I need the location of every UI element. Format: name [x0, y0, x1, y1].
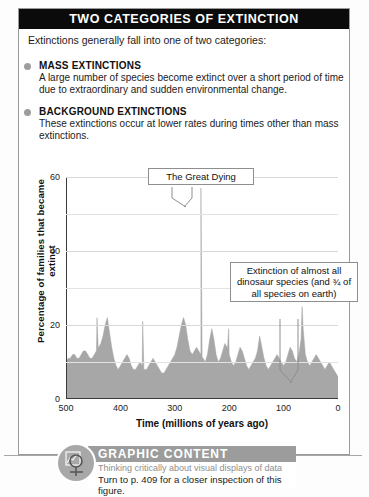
footer-rule-right — [296, 455, 362, 456]
y-axis-ticks: 0204060 — [34, 160, 60, 410]
footer-subtitle: Thinking critically about visual display… — [98, 463, 298, 473]
x-tick-label: 100 — [276, 403, 291, 413]
x-axis-line — [66, 398, 338, 399]
bullet-item-mass-extinctions: MASS EXTINCTIONS A large number of speci… — [24, 60, 344, 97]
callout-leader-dinosaur — [278, 318, 314, 384]
bullet-heading: MASS EXTINCTIONS — [39, 60, 344, 71]
x-tick-label: 200 — [222, 403, 237, 413]
x-tick-label: 400 — [113, 403, 128, 413]
x-tick-label: 0 — [335, 403, 340, 413]
y-tick-label: 0 — [34, 395, 60, 403]
footer-turn-to: Turn to p. 409 for a closer inspection o… — [98, 474, 308, 496]
magnifier-chart-icon — [56, 443, 96, 483]
bullet-dot-icon — [24, 109, 31, 116]
page-title: TWO CATEGORIES OF EXTINCTION — [69, 12, 299, 26]
bullet-body: These extinctions occur at lower rates d… — [39, 118, 344, 143]
bullet-heading: BACKGROUND EXTINCTIONS — [39, 106, 344, 117]
figure-title-bar: TWO CATEGORIES OF EXTINCTION — [19, 9, 349, 29]
bullet-item-background-extinctions: BACKGROUND EXTINCTIONS These extinctions… — [24, 106, 344, 143]
y-tick-label: 40 — [34, 247, 60, 255]
graphic-content-banner: GRAPHIC CONTENT — [88, 446, 296, 462]
figure-page: TWO CATEGORIES OF EXTINCTION Extinctions… — [0, 0, 369, 497]
x-axis-title: Time (millions of years ago) — [66, 418, 338, 429]
callout-dinosaur-extinction: Extinction of almost all dinosaur specie… — [230, 262, 358, 302]
x-axis-ticks: 5004003002001000 — [66, 403, 338, 417]
gridline — [66, 214, 338, 215]
x-tick-label: 500 — [58, 403, 73, 413]
intro-text: Extinctions generally fall into one of t… — [28, 34, 340, 46]
y-tick-label: 60 — [34, 173, 60, 181]
callout-great-dying: The Great Dying — [148, 168, 254, 185]
bullet-dot-icon — [24, 63, 31, 70]
gridline — [66, 251, 338, 252]
y-tick-label: 20 — [34, 321, 60, 329]
graphic-content-label: GRAPHIC CONTENT — [98, 447, 228, 461]
callout-leader-great-dying — [170, 186, 210, 208]
x-tick-label: 300 — [167, 403, 182, 413]
bullet-body: A large number of species become extinct… — [39, 72, 344, 97]
